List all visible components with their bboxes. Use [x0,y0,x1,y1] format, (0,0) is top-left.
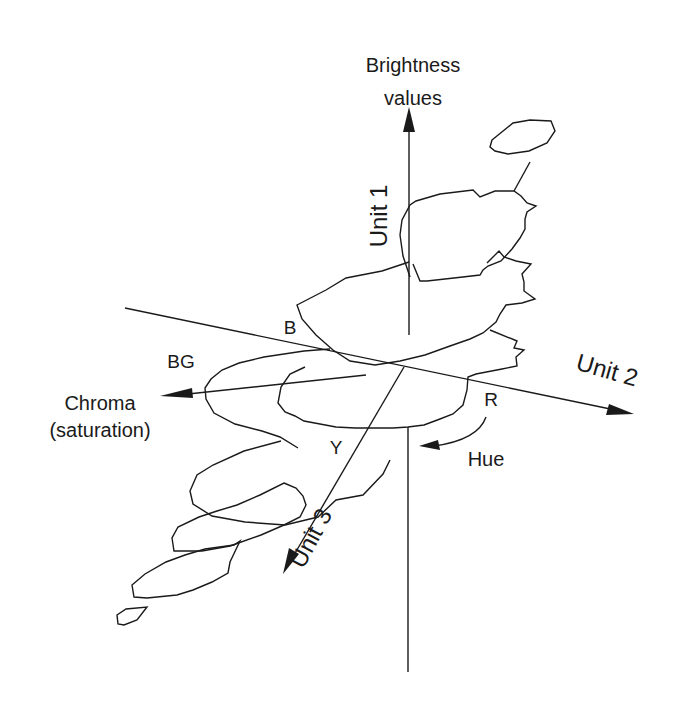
marker-yellow: Y [330,437,343,458]
unit1-axis [403,107,415,335]
brightness-title-line1: Brightness [366,54,461,76]
unit1-arrowhead-icon [403,107,415,132]
unit1-label: Unit 1 [365,185,392,248]
color-space-diagram: Brightness values Unit 1 Unit 2 [0,0,685,703]
color-solid-slices [117,120,555,625]
slice-lower-1 [172,483,306,551]
slice-lower-2 [132,541,240,598]
chroma-axis [160,375,366,398]
marker-blue-green: BG [167,351,194,372]
slice-bg [205,349,330,448]
marker-red: R [484,389,498,410]
unit2-label: Unit 2 [573,348,641,391]
unit2-arrowhead-icon [606,404,634,415]
chroma-arrowhead-icon [160,388,193,398]
slice-top-cap [490,120,555,154]
brightness-title-line2: values [384,87,442,109]
chroma-label-line2: (saturation) [49,419,150,441]
hue-arrow [419,417,486,450]
unit2-axis [125,308,634,415]
slice-lower-3 [117,607,147,625]
slice-upper [400,190,536,281]
slice-yellow [190,441,390,525]
chroma-label-line1: Chroma [64,392,136,414]
slice-mid-upper [297,251,535,365]
slice-mid-right [278,330,524,428]
marker-blue: B [284,317,297,338]
hue-label: Hue [468,448,505,470]
unit3-label: Unit 3 [284,504,337,572]
slice-connector [514,162,530,191]
hue-arrowhead-icon [419,440,440,450]
